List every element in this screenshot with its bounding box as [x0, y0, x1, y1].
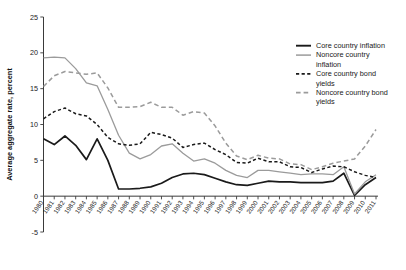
y-tick-label: 15: [30, 84, 38, 93]
chart-container: -505101520251980198119821983198419851986…: [0, 0, 406, 270]
y-axis-title: Average aggregate rate, percent: [5, 68, 14, 181]
y-tick-label: 10: [30, 120, 38, 129]
legend-label-3: Noncore country bond: [316, 88, 388, 97]
y-tick-label: 20: [30, 48, 38, 57]
legend-label-2-cont: yields: [316, 79, 335, 88]
legend-label-0: Core country inflation: [316, 41, 385, 50]
x-tick-label: 2010: [352, 199, 366, 215]
x-tick-label: 2011: [363, 199, 377, 215]
legend-label-3-cont: yields: [316, 97, 335, 106]
legend-label-2: Core country bond: [316, 69, 376, 78]
y-tick-label: 5: [34, 156, 38, 165]
line-chart: -505101520251980198119821983198419851986…: [0, 0, 406, 270]
legend-label-1: Noncore country: [316, 50, 370, 59]
y-tick-label: -5: [32, 228, 38, 237]
y-tick-label: 25: [30, 13, 38, 22]
legend-label-1-cont: inflation: [316, 60, 341, 69]
